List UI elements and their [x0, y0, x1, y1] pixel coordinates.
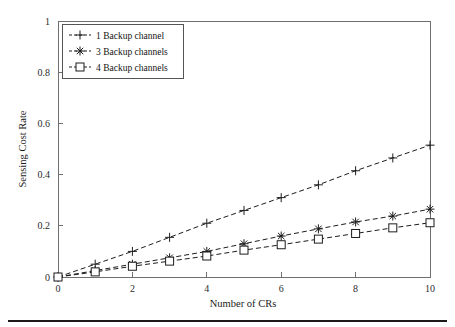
legend-sample-marker	[76, 47, 85, 56]
y-tick-label: 0	[45, 272, 50, 283]
y-axis-title: Sensing Cost Rate	[17, 110, 28, 187]
y-tick-label: 0.2	[38, 220, 51, 231]
y-tick-label: 1	[45, 16, 50, 27]
data-point	[388, 212, 397, 221]
data-point	[426, 205, 435, 214]
data-point	[426, 219, 434, 227]
data-point	[54, 273, 62, 281]
data-point	[166, 257, 174, 265]
x-axis-title: Number of CRs	[210, 298, 277, 309]
marker-square	[240, 246, 248, 254]
page-divider-rule	[8, 320, 447, 322]
marker-asterisk	[277, 232, 286, 241]
data-point	[277, 241, 285, 249]
marker-square	[91, 268, 99, 276]
marker-square	[128, 262, 136, 270]
data-point	[277, 232, 286, 241]
data-point	[314, 224, 323, 233]
x-tick-label: 2	[130, 283, 135, 294]
marker-square	[314, 235, 322, 243]
chart-legend: 1 Backup channel3 Backup channels4 Backu…	[62, 24, 183, 78]
marker-asterisk	[351, 217, 360, 226]
x-tick-label: 4	[204, 283, 209, 294]
marker-asterisk	[426, 205, 435, 214]
data-point	[91, 268, 99, 276]
marker-square	[352, 229, 360, 237]
legend-sample-marker	[76, 63, 84, 71]
x-tick-label: 0	[56, 283, 61, 294]
data-point	[128, 262, 136, 270]
data-point	[352, 229, 360, 237]
data-point	[203, 252, 211, 260]
x-tick-label: 8	[353, 283, 358, 294]
marker-square	[166, 257, 174, 265]
marker-asterisk	[388, 212, 397, 221]
marker-asterisk	[314, 224, 323, 233]
y-tick-label: 0.4	[38, 169, 51, 180]
figure-container: 0246810 00.20.40.60.81 Number of CRs Sen…	[0, 0, 455, 327]
marker-square	[76, 63, 84, 71]
data-point	[314, 235, 322, 243]
x-tick-label: 6	[279, 283, 284, 294]
data-point	[389, 224, 397, 232]
marker-square	[203, 252, 211, 260]
legend-entry-label: 3 Backup channels	[96, 47, 168, 57]
y-tick-label: 0.6	[38, 118, 51, 129]
marker-square	[54, 273, 62, 281]
marker-square	[389, 224, 397, 232]
x-tick-label: 10	[425, 283, 435, 294]
marker-asterisk	[76, 47, 85, 56]
legend-entry-label: 1 Backup channel	[96, 31, 164, 41]
y-tick-label: 0.8	[38, 67, 51, 78]
sensing-cost-rate-line-chart: 0246810 00.20.40.60.81 Number of CRs Sen…	[0, 0, 455, 327]
legend-entry-label: 4 Backup channels	[96, 63, 168, 73]
data-point	[240, 246, 248, 254]
marker-square	[277, 241, 285, 249]
legend-entry[interactable]: 4 Backup channels	[69, 63, 168, 73]
marker-square	[426, 219, 434, 227]
data-point	[351, 217, 360, 226]
